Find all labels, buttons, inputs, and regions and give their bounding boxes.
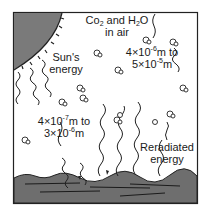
solar-wavelength-label: 4×10-7m to 3×10-6m (28, 115, 100, 139)
greenhouse-diagram: Co2 and H2O in air Sun's energy 4×10-6m … (0, 0, 211, 217)
gases-label: Co2 and H2O in air (72, 14, 162, 38)
sun-energy-label: Sun's energy (42, 51, 90, 75)
reradiated-energy-label: Reradiated energy (136, 141, 198, 165)
ir-wavelength-label: 4×10-6m to 5×10-5m (112, 46, 192, 70)
